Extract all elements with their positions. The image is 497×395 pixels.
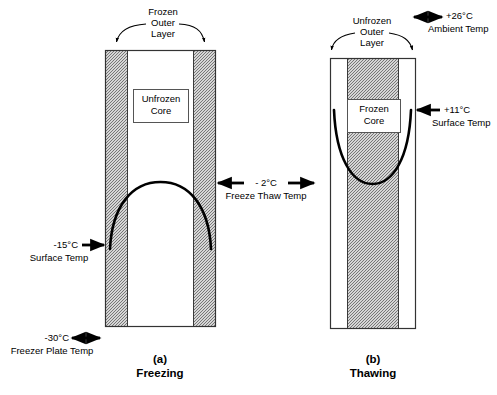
panel-b-name: Thawing bbox=[350, 366, 397, 380]
panel-b-callout-line-3: Layer bbox=[353, 37, 392, 48]
panel-a-outer-layer-callout: Frozen Outer Layer bbox=[148, 6, 178, 39]
freeze-thaw-temp-name-wrap: Freeze Thaw Temp bbox=[226, 190, 307, 201]
panel-a-freezer-plate-value-wrap: -30°C bbox=[45, 332, 69, 343]
panel-b-ambient-temp-name-wrap: Ambient Temp bbox=[428, 23, 489, 34]
freeze-thaw-temp-name: Freeze Thaw Temp bbox=[226, 190, 307, 201]
panel-b-tag: (b) bbox=[350, 352, 397, 366]
panel-a-tag: (a) bbox=[136, 352, 183, 366]
panel-a-freezer-plate-value: -30°C bbox=[45, 332, 69, 343]
panel-a-right-frozen-layer bbox=[194, 51, 216, 327]
panel-b-callout-line-2: Outer bbox=[353, 26, 392, 37]
panel-a-callout-line-3: Layer bbox=[148, 28, 178, 39]
panel-a-core-line-2: Core bbox=[134, 105, 188, 117]
panel-a-surface-temp-value: -15°C bbox=[54, 239, 78, 250]
panel-b-callout-arrow-left bbox=[332, 33, 356, 50]
panel-b-surface-temp-value: +11°C bbox=[444, 104, 470, 115]
panel-b-ambient-temp-name: Ambient Temp bbox=[428, 23, 489, 34]
panel-a-surface-temp-label: -15°C bbox=[54, 239, 78, 250]
panel-b-callout-line-1: Unfrozen bbox=[353, 15, 392, 26]
panel-b-surface-temp-name: Surface Temp bbox=[432, 117, 490, 128]
panel-a-freezer-plate-name-wrap: Freezer Plate Temp bbox=[11, 345, 94, 356]
freeze-thaw-diagram: Frozen Outer Layer Unfrozen Core -15°C S… bbox=[0, 0, 497, 395]
panel-b-frozen-core-label: Frozen Core bbox=[347, 99, 401, 133]
freeze-thaw-temp-value: - 2°C bbox=[255, 177, 277, 188]
panel-b-core-line-1: Frozen bbox=[348, 103, 400, 115]
panel-b-ambient-temp-value-wrap: +26°C bbox=[446, 10, 473, 21]
panel-b-surface-temp-name-wrap: Surface Temp bbox=[432, 117, 490, 128]
panel-a-freezer-plate-name: Freezer Plate Temp bbox=[11, 345, 94, 356]
panel-a-core-line-1: Unfrozen bbox=[134, 93, 188, 105]
panel-b-outer-layer-callout: Unfrozen Outer Layer bbox=[353, 15, 392, 48]
panel-a-callout-line-2: Outer bbox=[148, 17, 178, 28]
panel-a-name: Freezing bbox=[136, 366, 183, 380]
panel-b-title: (b) Thawing bbox=[350, 352, 397, 380]
panel-a-callout-line-1: Frozen bbox=[148, 6, 178, 17]
panel-b-core-line-2: Core bbox=[348, 115, 400, 127]
panel-b-surface-temp-value-wrap: +11°C bbox=[444, 104, 470, 115]
panel-a-title: (a) Freezing bbox=[136, 352, 183, 380]
panel-a-unfrozen-core-label: Unfrozen Core bbox=[133, 89, 189, 123]
panel-b-callout-arrow-right bbox=[389, 33, 413, 50]
panel-b-ambient-temp-value: +26°C bbox=[446, 10, 473, 21]
panel-a-callout-arrow-left bbox=[117, 24, 147, 42]
panel-a-callout-arrow-right bbox=[179, 24, 205, 42]
panel-a-left-frozen-layer bbox=[106, 51, 128, 327]
freeze-thaw-temp-value-wrap: - 2°C bbox=[255, 177, 277, 188]
panel-a-surface-temp-name-wrap: Surface Temp bbox=[30, 252, 88, 263]
panel-a-surface-temp-name: Surface Temp bbox=[30, 252, 88, 263]
